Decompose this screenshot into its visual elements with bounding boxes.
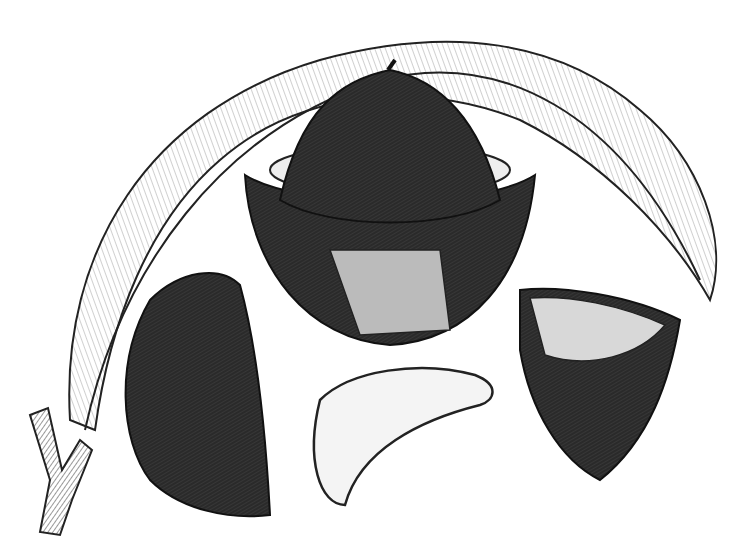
brazil-nut-engraving xyxy=(0,0,756,555)
stem xyxy=(30,408,92,535)
broken-shell xyxy=(520,289,680,480)
seed-capsule xyxy=(126,273,270,516)
shelled-nut xyxy=(314,368,492,505)
